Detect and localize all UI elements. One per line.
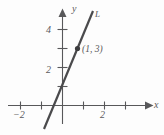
y-axis-arrowhead (59, 9, 67, 18)
line-graph-figure: y x L 4 2 −2 2 (1, 3) (0, 0, 164, 135)
point-1-3 (75, 46, 80, 51)
line-name-label: L (95, 10, 100, 19)
point-coordinate-label: (1, 3) (82, 45, 103, 55)
y-axis-label: y (72, 4, 76, 14)
line-L (44, 11, 93, 129)
x-axis-arrowhead (145, 102, 154, 110)
x-tick-label-2: 2 (100, 110, 105, 120)
x-axis-label: x (154, 100, 158, 110)
y-tick-label-2: 2 (46, 65, 51, 75)
y-tick-label-4: 4 (46, 25, 51, 35)
x-tick-label-negative-2: −2 (13, 110, 25, 120)
